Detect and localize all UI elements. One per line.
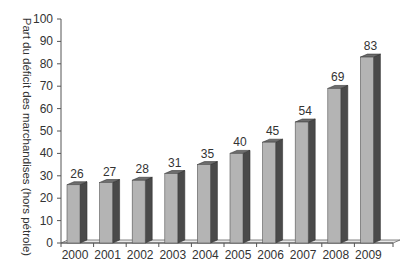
x-tick-label: 2009 (355, 248, 382, 262)
y-tick-label: 0 (46, 236, 53, 250)
bar-side (113, 180, 120, 243)
data-label: 45 (266, 124, 280, 138)
y-tick-label: 80 (40, 57, 54, 71)
chart-canvas: 0102030405060708090100262000272001282002… (0, 0, 409, 274)
x-tick-label: 2001 (94, 248, 121, 262)
y-tick-label: 20 (40, 191, 54, 205)
bar-side (145, 177, 152, 243)
data-label: 40 (233, 135, 247, 149)
x-tick-label: 2002 (127, 248, 154, 262)
data-label: 35 (201, 147, 215, 161)
bar-2000 (67, 185, 80, 243)
bar-side (276, 139, 283, 243)
bar-side (373, 54, 380, 243)
bar-2005 (230, 153, 243, 243)
bar-side (210, 162, 217, 243)
y-tick-label: 40 (40, 146, 54, 160)
x-tick-label: 2006 (257, 248, 284, 262)
bar-side (308, 119, 315, 243)
bar-2008 (328, 88, 341, 243)
y-tick-label: 90 (40, 34, 54, 48)
data-label: 83 (364, 39, 378, 53)
bar-2002 (132, 180, 145, 243)
bar-side (80, 182, 87, 243)
x-tick-label: 2005 (225, 248, 252, 262)
data-label: 54 (299, 104, 313, 118)
bar-chart: 0102030405060708090100262000272001282002… (0, 0, 409, 274)
x-tick-label: 2008 (322, 248, 349, 262)
bar-2006 (263, 142, 276, 243)
y-tick-label: 70 (40, 79, 54, 93)
y-tick-label: 10 (40, 214, 54, 228)
data-label: 69 (331, 70, 345, 84)
x-tick-label: 2004 (192, 248, 219, 262)
bar-side (341, 85, 348, 243)
data-label: 26 (70, 167, 84, 181)
bar-2003 (165, 174, 178, 243)
y-axis-label: Part du déficit des marchandises (hors p… (19, 17, 33, 257)
y-tick-label: 100 (33, 12, 53, 26)
x-tick-label: 2003 (159, 248, 186, 262)
bar-2009 (360, 57, 373, 243)
y-tick-label: 60 (40, 102, 54, 116)
x-tick-label: 2007 (290, 248, 317, 262)
bar-2007 (295, 122, 308, 243)
data-label: 27 (103, 165, 117, 179)
data-label: 28 (136, 162, 150, 176)
y-tick-label: 30 (40, 169, 54, 183)
data-label: 31 (168, 156, 182, 170)
bar-2001 (100, 183, 113, 243)
bar-2004 (197, 165, 210, 243)
bar-side (178, 171, 185, 243)
bar-side (243, 150, 250, 243)
y-tick-label: 50 (40, 124, 54, 138)
x-tick-label: 2000 (62, 248, 89, 262)
